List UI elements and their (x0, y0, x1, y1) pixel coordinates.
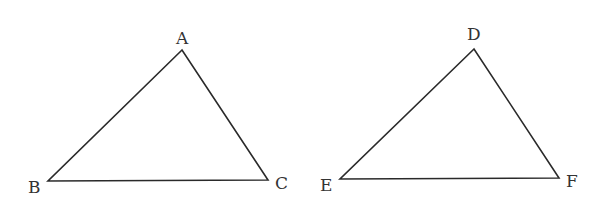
vertex-label-c: C (275, 173, 288, 193)
vertex-label-a: A (175, 28, 189, 48)
triangle-def-shape (340, 49, 559, 179)
vertex-label-f: F (566, 171, 578, 191)
triangle-abc: A B C (28, 28, 288, 197)
vertex-label-e: E (320, 175, 332, 195)
triangle-abc-shape (48, 50, 268, 181)
diagram-canvas: A B C D E F (0, 0, 607, 206)
vertex-label-b: B (28, 177, 41, 197)
vertex-label-d: D (467, 24, 481, 44)
triangle-def: D E F (320, 24, 578, 195)
